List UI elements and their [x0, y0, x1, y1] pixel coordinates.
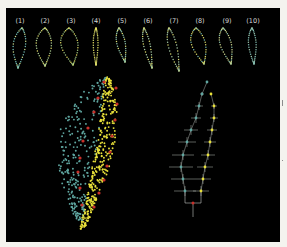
root-node [192, 202, 195, 205]
margin-tick [282, 100, 283, 106]
right-margin [280, 0, 287, 247]
tree-node [172, 150, 194, 160]
tree-node [174, 186, 196, 196]
tree-node [193, 186, 209, 196]
skeleton-tree-diagram [6, 8, 280, 242]
tree-node [178, 137, 196, 147]
tree-node [200, 92, 204, 96]
tree-node [169, 162, 193, 172]
tree-node [184, 125, 198, 135]
tree-node [195, 174, 211, 184]
tree-node [211, 103, 217, 109]
tree-node [191, 113, 201, 123]
tree-node [197, 162, 213, 172]
margin-tick [282, 160, 283, 161]
tree-node [195, 102, 203, 110]
tree-node [171, 174, 195, 184]
figure-panel: (1)(2)(3)(4)(5)(6)(7)(8)(9)(10) [6, 8, 280, 242]
tree-node [207, 125, 217, 135]
tree-node [204, 137, 216, 147]
tree-node [201, 150, 215, 160]
tree-node [210, 114, 218, 122]
tree-node [206, 81, 209, 84]
tree-node [210, 93, 213, 96]
